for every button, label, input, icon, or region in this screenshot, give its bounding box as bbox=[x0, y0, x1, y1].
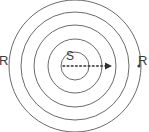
radius-label-left: R bbox=[0, 54, 8, 67]
radius-arrow-head bbox=[105, 63, 112, 70]
concentric-circles-graphic bbox=[0, 0, 149, 132]
radius-label-right: R bbox=[138, 54, 147, 67]
wavefront-diagram: S R R bbox=[0, 0, 149, 132]
radius-arrow bbox=[63, 63, 112, 70]
source-label: S bbox=[66, 50, 74, 62]
